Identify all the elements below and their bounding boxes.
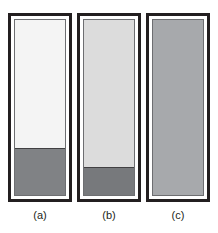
column-upper-fill-b <box>84 20 134 167</box>
column-upper-fill-a <box>15 20 65 148</box>
figure-canvas: (a) (b) (c) <box>0 0 218 233</box>
column-diagram-c <box>146 13 210 202</box>
column-lower-fill-b <box>84 167 134 195</box>
column-body-c <box>152 19 204 196</box>
column-lower-fill-a <box>15 148 65 195</box>
column-diagram-b <box>77 13 141 202</box>
panel-label-a: (a) <box>8 209 72 222</box>
panel-white-gap-c <box>149 16 207 199</box>
panel-row: (a) (b) (c) <box>0 0 218 233</box>
column-diagram-a <box>8 13 72 202</box>
column-upper-fill-c <box>153 20 203 195</box>
panel-label-b: (b) <box>77 209 141 222</box>
panel-white-gap-a <box>11 16 69 199</box>
panel-white-gap-b <box>80 16 138 199</box>
column-body-b <box>83 19 135 196</box>
panel-label-c: (c) <box>146 209 210 222</box>
column-body-a <box>14 19 66 196</box>
